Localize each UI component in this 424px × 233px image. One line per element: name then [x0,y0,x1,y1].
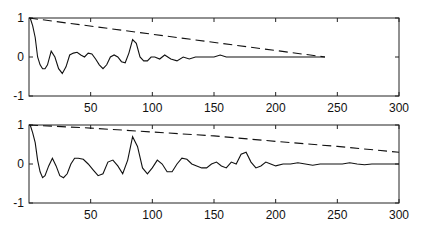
y-tick-label: -1 [13,196,24,210]
x-tick-label: 300 [389,101,409,115]
y-tick-label: -1 [13,89,24,103]
y-tick-label: 1 [17,118,24,132]
bottom-dashed-line [29,125,399,152]
x-tick-label: 250 [327,101,347,115]
top-solid-line [30,18,325,73]
y-tick-label: 0 [17,50,24,64]
x-tick-label: 250 [327,208,347,222]
y-tick-label: 0 [17,157,24,171]
top-dashed-line [29,18,325,57]
x-tick-label: 150 [204,208,224,222]
figure: 50100150200250300 10-1 50100150200250300… [0,0,424,233]
bottom-subplot: 50100150200250300 10-1 [13,118,409,222]
bottom-x-ticks: 50100150200250300 [84,125,409,222]
bottom-solid-line [30,125,399,178]
top-subplot: 50100150200250300 10-1 [13,11,409,115]
x-tick-label: 100 [142,101,162,115]
x-tick-label: 50 [84,101,98,115]
x-tick-label: 200 [266,208,286,222]
y-tick-label: 1 [17,11,24,25]
x-tick-label: 150 [204,101,224,115]
x-tick-label: 300 [389,208,409,222]
x-tick-label: 50 [84,208,98,222]
x-tick-label: 100 [142,208,162,222]
top-x-ticks: 50100150200250300 [84,18,409,115]
x-tick-label: 200 [266,101,286,115]
